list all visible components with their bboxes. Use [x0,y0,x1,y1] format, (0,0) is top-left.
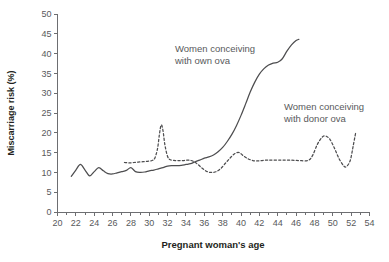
x-axis-tick-label: 34 [181,218,191,228]
x-axis-tick-label: 42 [254,218,264,228]
chart-figure: 05101520253035404550 2022242628303234363… [0,0,389,262]
x-axis-tick-label: 24 [89,218,99,228]
y-axis-title: Miscarriage risk (%) [6,70,16,155]
x-axis-tick-label: 26 [108,218,118,228]
x-axis-tick-label: 40 [236,218,246,228]
y-axis: 05101520253035404550 [41,9,57,217]
x-axis-tick-label: 50 [328,218,338,228]
y-axis-tick-label: 25 [41,108,51,118]
y-axis-tick-label: 0 [46,207,51,217]
annotation-own-ova: Women conceivingwith own ova [174,43,255,66]
x-axis-tick-label: 46 [291,218,301,228]
x-axis: 202224262830323436384042444648505254 [52,212,374,228]
x-axis-tick-label: 30 [144,218,154,228]
series-line-2 [124,125,355,173]
y-axis-tick-label: 35 [41,69,51,79]
x-axis-tick-label: 28 [126,218,136,228]
x-axis-tick-label: 20 [52,218,62,228]
y-axis-tick-label: 20 [41,128,51,138]
x-axis-tick-label: 32 [163,218,173,228]
annotation-donor-ova: Women conceivingwith donor ova [283,101,364,124]
x-axis-tick-label: 44 [273,218,283,228]
x-axis-tick-label: 48 [309,218,319,228]
y-axis-tick-label: 30 [41,88,51,98]
x-axis-tick-label: 36 [199,218,209,228]
y-axis-tick-label: 10 [41,168,51,178]
y-axis-tick-label: 45 [41,29,51,39]
x-axis-title: Pregnant woman's age [161,239,264,250]
y-axis-tick-label: 40 [41,49,51,59]
x-axis-tick-label: 54 [364,218,374,228]
y-axis-tick-label: 15 [41,148,51,158]
y-axis-tick-label: 50 [41,9,51,19]
x-axis-tick-label: 38 [218,218,228,228]
chart-svg: 05101520253035404550 2022242628303234363… [0,0,389,262]
x-axis-tick-label: 52 [346,218,356,228]
series-annotations: Women conceivingwith own ovaWomen concei… [174,43,364,124]
y-axis-tick-label: 5 [46,187,51,197]
x-axis-tick-label: 22 [71,218,81,228]
